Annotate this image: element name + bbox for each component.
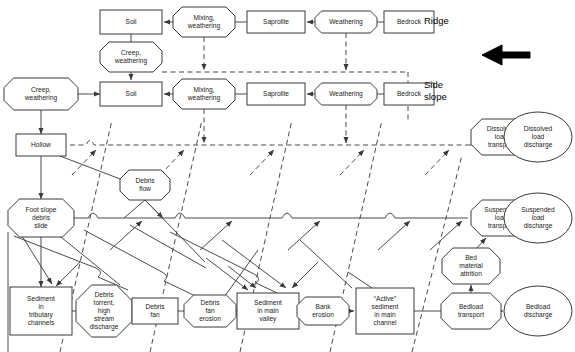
node-ridge-weathering[interactable]: Weathering xyxy=(315,11,377,33)
node-label-dissolved-load-discharge: load xyxy=(532,133,545,140)
node-label-side-soil: Soil xyxy=(126,90,138,97)
edge-attrition-suspended xyxy=(476,238,486,249)
node-label-foot-slope-debris-slide: slide xyxy=(34,222,48,229)
node-label-suspended-load-discharge: load xyxy=(532,214,545,221)
node-label-side-bedrock: Bedrock xyxy=(397,90,422,97)
diagram-canvas: SoilMixing,weatheringSaproliteWeathering… xyxy=(0,0,575,352)
node-label-bed-material-attrition: attrition xyxy=(460,270,482,277)
node-label-debris-fan-erosion: Debris xyxy=(200,299,220,306)
node-label-ridge-bedrock: Bedrock xyxy=(397,18,422,25)
node-label-debris-fan: Debris xyxy=(145,303,165,310)
node-ridge-creep-weathering[interactable]: Creep,weathering xyxy=(100,42,162,72)
node-label-debris-fan-erosion: fan xyxy=(205,307,214,314)
node-label-debris-fan: fan xyxy=(150,311,159,318)
node-label-debris-torrent: discharge xyxy=(90,323,119,331)
node-side-creep-weathering[interactable]: Creep,weathering xyxy=(4,78,78,110)
edge-into-main-valley-2 xyxy=(206,258,248,290)
feeder-suspended-3 xyxy=(288,221,320,250)
node-label-ridge-mixing-weathering: weathering xyxy=(187,22,221,30)
node-debris-fan[interactable]: Debrisfan xyxy=(132,298,178,324)
node-label-side-saprolite: Saprolite xyxy=(263,90,289,98)
feeder-dissolved-3 xyxy=(250,150,274,175)
node-foot-slope-debris-slide[interactable]: Foot slopedebrisslide xyxy=(8,199,74,237)
sediment-cascade-diagram: SoilMixing,weatheringSaproliteWeathering… xyxy=(0,0,575,352)
node-label-bank-erosion: erosion xyxy=(312,311,334,318)
node-label-ridge-creep-weathering: Creep, xyxy=(121,49,141,57)
node-label-bedload-discharge: discharge xyxy=(524,311,553,319)
node-label-bank-erosion: Bank xyxy=(315,303,331,310)
node-ridge-soil[interactable]: Soil xyxy=(100,10,162,34)
node-label-bedload-transport: Bedload xyxy=(459,303,484,310)
node-label-foot-slope-debris-slide: debris xyxy=(32,214,51,221)
node-label-side-creep-weathering: Creep, xyxy=(31,86,51,94)
web-diag-e xyxy=(222,240,286,288)
node-label-hollow: Hollow xyxy=(31,141,51,148)
node-bed-material-attrition[interactable]: Bedmaterialattrition xyxy=(442,248,500,284)
node-label-bed-material-attrition: Bed xyxy=(465,254,477,261)
web-diag-f xyxy=(300,240,352,288)
node-label-debris-torrent: torrent, xyxy=(94,299,115,306)
node-bedload-transport[interactable]: Bedloadtransport xyxy=(441,293,501,329)
node-label-foot-slope-debris-slide: Foot slope xyxy=(26,206,57,214)
node-label-debris-fan-erosion: erosion xyxy=(199,315,221,322)
node-label-ridge-mixing-weathering: Mixing, xyxy=(194,14,215,22)
web-diag-c xyxy=(170,232,292,300)
node-hollow[interactable]: Hollow xyxy=(16,134,66,156)
node-label-debris-flow: flow xyxy=(139,185,151,192)
node-label-suspended-load-discharge: discharge xyxy=(524,222,553,230)
edge-into-sediment-trib xyxy=(56,262,80,286)
feeder-suspended-1 xyxy=(110,221,142,250)
node-bedload-discharge[interactable]: Bedloaddischarge xyxy=(504,286,572,336)
node-label-active-sediment-in-main-channel: sediment xyxy=(372,303,399,310)
node-label-bedload-discharge: Bedload xyxy=(526,303,551,310)
node-debris-torrent[interactable]: Debristorrent,highstreamdischarge xyxy=(76,285,132,337)
node-label-side-creep-weathering: weathering xyxy=(24,94,58,102)
node-label-ridge-weathering: Weathering xyxy=(329,18,363,26)
node-label-ridge-saprolite: Saprolite xyxy=(263,18,289,26)
node-label-ridge-soil: Soil xyxy=(126,18,138,25)
node-label-bedload-transport: transport xyxy=(458,311,484,319)
node-side-weathering[interactable]: Weathering xyxy=(315,83,377,105)
node-sediment-in-main-valley[interactable]: Sedimentin mainvalley xyxy=(237,293,299,329)
edge-into-main-valley-1 xyxy=(228,266,256,288)
node-label-sediment-in-tributary-channels: channels xyxy=(28,319,55,326)
node-label-active-sediment-in-main-channel: in main xyxy=(374,311,396,318)
node-label-bed-material-attrition: material xyxy=(459,262,483,269)
node-side-soil[interactable]: Soil xyxy=(100,82,162,106)
feeder-suspended-4 xyxy=(378,221,410,250)
edge-debrisflow-left xyxy=(124,200,145,218)
dissolved-load-trunk xyxy=(70,141,468,146)
node-dissolved-load-discharge[interactable]: Dissolvedloaddischarge xyxy=(504,112,572,162)
node-debris-flow[interactable]: Debrisflow xyxy=(120,170,170,200)
node-ridge-mixing-weathering[interactable]: Mixing,weathering xyxy=(173,7,235,37)
node-side-mixing-weathering[interactable]: Mixing,weathering xyxy=(173,79,235,109)
edge-footslope-down2 xyxy=(22,236,52,284)
node-label-side-mixing-weathering: Mixing, xyxy=(194,86,215,94)
node-label-side-weathering: Weathering xyxy=(329,90,363,98)
node-label-dissolved-load-discharge: discharge xyxy=(524,141,553,149)
node-label-sediment-in-tributary-channels: tributary xyxy=(29,311,54,319)
node-ridge-saprolite[interactable]: Saprolite xyxy=(247,11,305,33)
node-bank-erosion[interactable]: Bankerosion xyxy=(297,297,349,325)
edge-into-active-sed xyxy=(348,272,372,288)
node-label-sediment-in-main-valley: valley xyxy=(260,315,278,323)
node-label-dissolved-load-discharge: Dissolved xyxy=(524,125,553,132)
node-label-suspended-load-discharge: Suspended xyxy=(521,206,555,214)
edge-hollow-diag xyxy=(60,156,128,182)
node-label-debris-torrent: high xyxy=(98,307,111,315)
node-sediment-in-tributary-channels[interactable]: Sedimentintributarychannels xyxy=(10,287,72,335)
flow-direction-arrow xyxy=(482,45,530,65)
node-suspended-load-discharge[interactable]: Suspendedloaddischarge xyxy=(504,193,572,243)
zone-label-ridge: Ridge xyxy=(424,15,449,26)
web-diag-d xyxy=(130,225,206,268)
node-label-debris-flow: Debris xyxy=(135,177,155,184)
node-debris-fan-erosion[interactable]: Debrisfanerosion xyxy=(184,295,236,327)
node-label-ridge-creep-weathering: weathering xyxy=(114,57,148,65)
node-side-saprolite[interactable]: Saprolite xyxy=(247,83,305,105)
feeder-dissolved-2 xyxy=(160,150,184,175)
edge-footslope-diag1 xyxy=(56,233,120,285)
node-label-active-sediment-in-main-channel: “Active” xyxy=(374,295,396,302)
node-active-sediment-in-main-channel[interactable]: “Active”sedimentin mainchannel xyxy=(356,288,414,334)
node-label-sediment-in-main-valley: Sediment xyxy=(254,299,282,306)
zone-label-side-slope-2: slope xyxy=(424,91,447,102)
